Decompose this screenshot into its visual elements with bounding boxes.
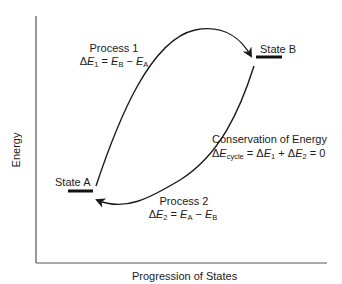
process-2-equation: ΔE2 = EA − EB bbox=[140, 208, 226, 220]
state-a-label: State A bbox=[55, 176, 90, 188]
state-b-label: State B bbox=[260, 43, 296, 55]
conservation-title: Conservation of Energy bbox=[212, 133, 327, 145]
x-axis-label: Progression of States bbox=[132, 270, 237, 282]
conservation-equation: ΔEcycle = ΔE1 + ΔE2 = 0 bbox=[212, 147, 325, 159]
process-2-title: Process 2 bbox=[146, 195, 222, 207]
process-1-title: Process 1 bbox=[76, 42, 152, 54]
y-axis-label: Energy bbox=[10, 120, 22, 180]
process-1-equation: ΔE1 = EB − EA bbox=[72, 55, 156, 67]
